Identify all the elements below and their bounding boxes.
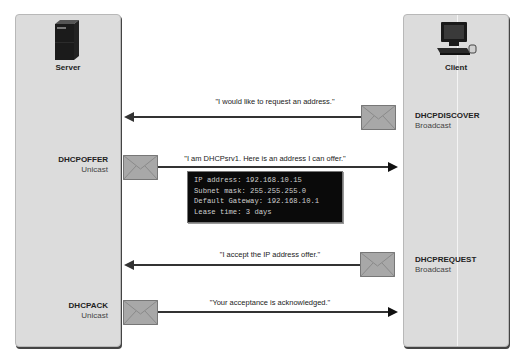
client-label: Client: [404, 63, 508, 72]
offer-message-text: "I am DHCPsrv1. Here is an address I can…: [175, 154, 355, 163]
dhcpdiscover-label: DHCPDISCOVER: [415, 111, 479, 121]
client-panel: Client DHCPDISCOVER Broadcast DHCPREQUES…: [403, 14, 509, 347]
offer-arrow: [158, 166, 396, 168]
envelope-icon: [123, 155, 158, 180]
offer-ip-address: IP address: 192.168.10.15: [194, 175, 342, 186]
dhcpdiscover-mode: Broadcast: [415, 121, 451, 131]
envelope-icon: [360, 252, 395, 277]
ack-message-text: "Your acceptance is acknowledged.": [190, 298, 350, 307]
offer-details-box: IP address: 192.168.10.15 Subnet mask: 2…: [187, 171, 343, 223]
server-panel: Server DHCPOFFER Unicast DHCPACK Unicast: [15, 14, 121, 347]
dhcpoffer-mode: Unicast: [81, 165, 108, 175]
envelope-icon: [361, 105, 396, 130]
discover-arrow: [126, 116, 362, 118]
dhcpack-mode: Unicast: [81, 311, 108, 321]
dhcprequest-label: DHCPREQUEST: [415, 255, 476, 265]
server-tower-icon: [52, 20, 80, 60]
envelope-icon: [123, 300, 158, 325]
request-arrow: [126, 264, 362, 266]
ack-arrow: [158, 311, 396, 313]
request-message-text: "I accept the IP address offer.": [200, 250, 340, 259]
discover-message-text: "I would like to request an address.": [190, 97, 360, 106]
dhcprequest-mode: Broadcast: [415, 265, 451, 275]
desktop-computer-icon: [437, 22, 477, 58]
offer-lease-time: Lease time: 3 days: [194, 207, 342, 218]
server-label: Server: [16, 63, 120, 72]
dhcpoffer-label: DHCPOFFER: [58, 155, 108, 165]
offer-subnet-mask: Subnet mask: 255.255.255.0: [194, 186, 342, 197]
dhcpack-label: DHCPACK: [69, 301, 108, 311]
offer-default-gateway: Default Gateway: 192.168.10.1: [194, 196, 342, 207]
